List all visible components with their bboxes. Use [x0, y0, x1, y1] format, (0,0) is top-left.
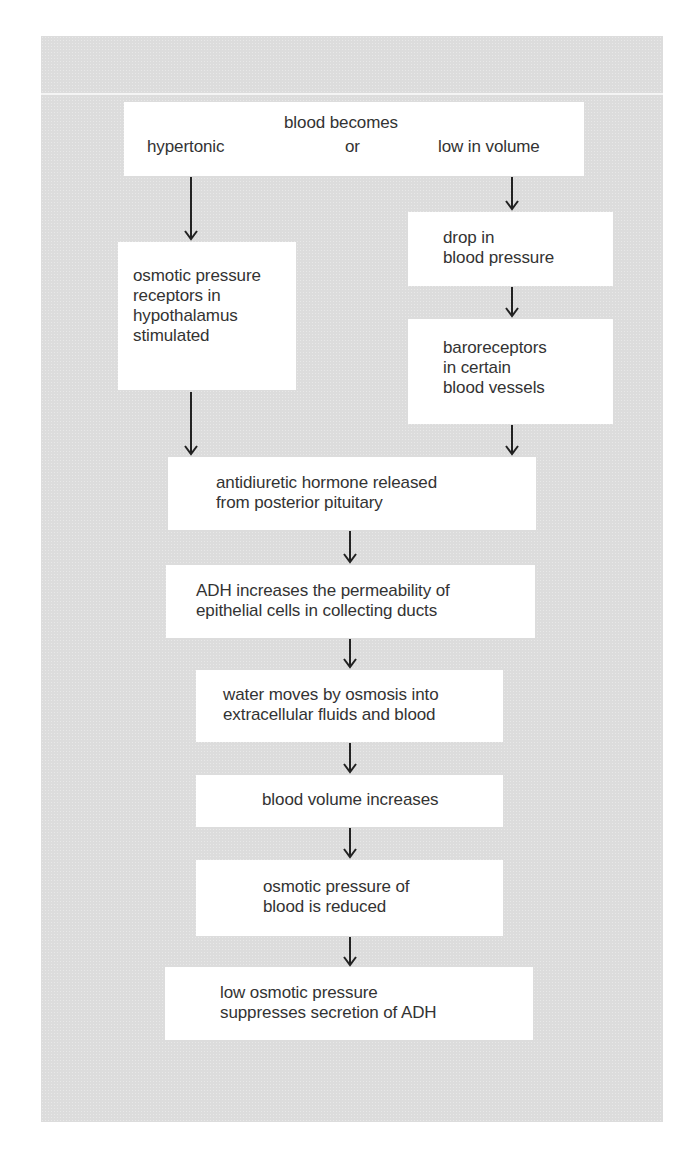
right-box-1-line: blood pressure — [443, 248, 613, 268]
arrow-down-icon — [343, 743, 357, 774]
step-box-water-osmosis: water moves by osmosis into extracellula… — [196, 670, 503, 742]
step-text: osmotic pressure of — [263, 877, 503, 897]
right-box-2-line: blood vessels — [443, 378, 613, 398]
arrow-down-icon — [343, 639, 357, 669]
start-left-condition: hypertonic — [147, 137, 224, 157]
arrow-down-icon — [505, 177, 519, 211]
start-box: blood becomes hypertonic or low in volum… — [124, 102, 584, 176]
step-box-blood-volume: blood volume increases — [196, 775, 503, 827]
step-text: blood volume increases — [262, 790, 503, 810]
right-branch-box-2: baroreceptors in certain blood vessels — [408, 319, 613, 424]
step-text: epithelial cells in collecting ducts — [196, 601, 535, 621]
arrow-down-icon — [343, 937, 357, 967]
start-right-condition: low in volume — [438, 137, 540, 157]
arrow-down-icon — [343, 828, 357, 859]
start-heading: blood becomes — [284, 113, 398, 133]
step-text: blood is reduced — [263, 897, 503, 917]
step-text: from posterior pituitary — [216, 493, 536, 513]
step-box-adh-permeability: ADH increases the permeability of epithe… — [166, 565, 535, 638]
arrow-down-icon — [505, 287, 519, 318]
panel-divider — [41, 93, 663, 95]
step-text: water moves by osmosis into — [223, 685, 503, 705]
left-box-line: hypothalamus — [133, 306, 296, 326]
step-text: antidiuretic hormone released — [216, 473, 536, 493]
arrow-down-icon — [343, 531, 357, 564]
right-box-2-line: in certain — [443, 358, 613, 378]
left-box-line: receptors in — [133, 286, 296, 306]
right-box-2-line: baroreceptors — [443, 338, 613, 358]
step-text: extracellular fluids and blood — [223, 705, 503, 725]
right-box-1-line: drop in — [443, 228, 613, 248]
right-branch-box-1: drop in blood pressure — [408, 212, 613, 286]
left-branch-box: osmotic pressure receptors in hypothalam… — [118, 242, 296, 390]
left-box-line: stimulated — [133, 326, 296, 346]
arrow-down-icon — [184, 177, 198, 241]
step-box-suppress-adh: low osmotic pressure suppresses secretio… — [165, 967, 533, 1040]
arrow-down-icon — [505, 425, 519, 456]
step-box-osmotic-reduced: osmotic pressure of blood is reduced — [196, 860, 503, 936]
step-text: suppresses secretion of ADH — [220, 1003, 533, 1023]
step-text: low osmotic pressure — [220, 983, 533, 1003]
step-text: ADH increases the permeability of — [196, 581, 535, 601]
start-connector: or — [345, 137, 360, 157]
arrow-down-icon — [184, 392, 198, 456]
step-box-adh-release: antidiuretic hormone released from poste… — [168, 457, 536, 530]
left-box-line: osmotic pressure — [133, 266, 296, 286]
